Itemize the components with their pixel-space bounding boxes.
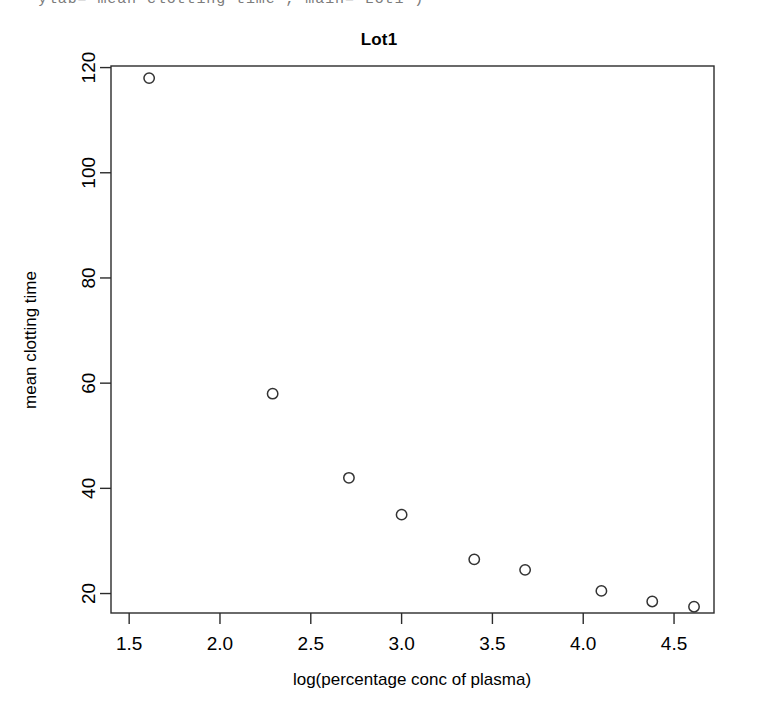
y-axis: 20406080100120	[79, 52, 112, 604]
y-axis-title: mean clotting time	[21, 271, 40, 409]
data-point	[647, 596, 657, 606]
x-axis-tick-label: 4.0	[570, 633, 596, 654]
y-axis-tick-label: 120	[79, 52, 100, 84]
x-axis-tick-label: 2.0	[207, 633, 233, 654]
y-axis-tick-label: 40	[79, 478, 100, 499]
plot-box	[111, 66, 714, 613]
scatter-plot-svg: 1.52.02.53.03.54.04.5 20406080100120 log…	[0, 0, 758, 725]
y-axis-tick-label: 100	[79, 157, 100, 189]
x-axis-tick-label: 3.5	[479, 633, 505, 654]
y-axis-tick-label: 20	[79, 583, 100, 604]
x-axis-tick-label: 1.5	[116, 633, 142, 654]
y-axis-tick-label: 60	[79, 373, 100, 394]
x-axis-tick-label: 3.0	[388, 633, 414, 654]
x-axis-tick-label: 4.5	[661, 633, 687, 654]
data-point	[596, 586, 606, 596]
data-point	[520, 565, 530, 575]
data-points	[144, 73, 699, 612]
data-point	[344, 473, 354, 483]
x-axis-title: log(percentage conc of plasma)	[293, 670, 531, 689]
data-point	[144, 73, 154, 83]
x-axis: 1.52.02.53.03.54.04.5	[116, 613, 687, 654]
plot-figure: Lot1 1.52.02.53.03.54.04.5 2040608010012…	[0, 0, 758, 725]
x-axis-tick-label: 2.5	[298, 633, 324, 654]
data-point	[267, 388, 277, 398]
data-point	[469, 554, 479, 564]
y-axis-tick-label: 80	[79, 267, 100, 288]
data-point	[689, 601, 699, 611]
data-point	[396, 509, 406, 519]
